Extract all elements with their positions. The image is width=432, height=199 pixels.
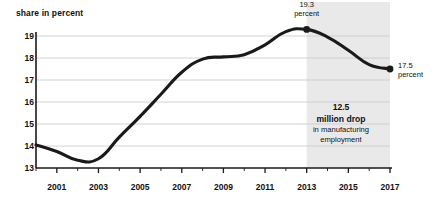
- callout-line-1: 12.5: [298, 102, 384, 114]
- callout-line-2: million drop: [298, 114, 384, 126]
- y-tick-label: 16: [12, 98, 34, 107]
- end-value-label: 17.5 percent: [398, 62, 423, 79]
- x-tick-label: 2017: [381, 182, 400, 192]
- callout-line-4: employment: [298, 135, 384, 145]
- drop-callout-annotation: 12.5 million drop in manufacturing emplo…: [298, 102, 384, 146]
- y-axis-tick-labels: 13141516171819: [12, 0, 34, 199]
- x-tick-label: 2003: [89, 182, 108, 192]
- end-unit: percent: [398, 70, 423, 79]
- y-tick-label: 17: [12, 76, 34, 85]
- chart-plot-area: [0, 0, 432, 199]
- peak-unit: percent: [294, 9, 319, 18]
- x-tick-label: 2011: [256, 182, 274, 192]
- callout-line-3: in manufacturing: [298, 125, 384, 135]
- x-tick-label: 2005: [131, 182, 150, 192]
- x-tick-label: 2013: [297, 182, 316, 192]
- line-chart: share in percent 13141516171819 20012003…: [0, 0, 432, 199]
- peak-value-label: 19.3 percent: [294, 1, 319, 18]
- marker-end-2017: [387, 66, 394, 73]
- y-tick-label: 15: [12, 120, 34, 129]
- y-tick-label: 19: [12, 32, 34, 41]
- x-tick-label: 2015: [339, 182, 358, 192]
- x-tick-label: 2007: [172, 182, 191, 192]
- marker-peak-2013: [303, 26, 310, 33]
- y-tick-label: 18: [12, 54, 34, 63]
- y-tick-label: 14: [12, 142, 34, 151]
- x-tick-label: 2009: [214, 182, 233, 192]
- x-tick-label: 2001: [47, 182, 66, 192]
- y-tick-label: 13: [12, 164, 34, 173]
